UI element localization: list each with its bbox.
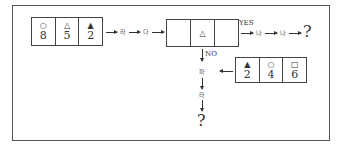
no-label: NO (205, 50, 217, 58)
cell-value: 2 (244, 69, 251, 81)
cell-value: 4 (268, 69, 275, 81)
compare-cell-1: ▲ 2 (236, 58, 260, 82)
cell-value: 8 (40, 30, 47, 42)
arrow-down-icon (202, 49, 203, 61)
no-step-2: 라 (199, 91, 205, 98)
arrow-right-icon (152, 32, 164, 33)
yes-label: YES (239, 19, 254, 27)
cell-value: 5 (64, 30, 71, 42)
arrow-down-icon (202, 100, 203, 111)
yes-step-2: 나 (280, 29, 286, 36)
decision-box: △ (166, 19, 239, 47)
decision-cell-2: △ (191, 20, 215, 46)
arrow-down-icon (202, 78, 203, 89)
cell-value: 2 (87, 30, 94, 42)
start-box: ○ 8 △ 5 ▲ 2 (31, 17, 103, 46)
arrow-right-icon (106, 32, 117, 33)
start-cell-3: ▲ 2 (79, 18, 102, 45)
compare-cell-2: ○ 4 (260, 58, 284, 82)
step-label-1: 라 (120, 28, 126, 35)
decision-cell-1 (167, 20, 191, 46)
arrow-right-icon (265, 33, 277, 34)
no-step-1: 파 (199, 68, 205, 75)
arrow-left-icon (220, 71, 233, 72)
step-label-2: 다 (143, 28, 149, 35)
yes-result: ? (303, 24, 312, 40)
compare-cell-3: □ 6 (283, 58, 306, 82)
start-cell-2: △ 5 (56, 18, 80, 45)
no-result: ? (197, 113, 206, 129)
decision-cell-3 (215, 20, 238, 46)
arrow-right-icon (129, 32, 140, 33)
cell-value: 6 (291, 69, 298, 81)
arrow-right-icon (241, 33, 253, 34)
compare-box: ▲ 2 ○ 4 □ 6 (235, 57, 307, 83)
arrow-right-icon (289, 33, 301, 34)
start-cell-1: ○ 8 (32, 18, 56, 45)
yes-step-1: 나 (256, 29, 262, 36)
triangle-outline-icon: △ (199, 29, 205, 38)
